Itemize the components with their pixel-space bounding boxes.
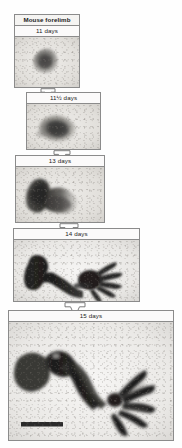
stage-label-13-days: 13 days (16, 156, 104, 167)
specimen-limb-paddle (16, 167, 104, 222)
stage-panel-14-days: 14 days (13, 228, 140, 302)
micrograph-14-days (14, 240, 139, 301)
micrograph-11-5-days (27, 104, 100, 149)
stage-label-15-days: 15 days (9, 311, 173, 322)
specimen-limb-digits-separated (9, 322, 173, 440)
specimen-limb-bud-elongating (27, 104, 100, 149)
stage-label-14-days: 14 days (14, 229, 139, 240)
stage-label-11-days: 11 days (15, 26, 79, 37)
stage-label-11-5-days: 11½ days (27, 93, 100, 104)
micrograph-13-days (16, 167, 104, 222)
micrograph-15-days (9, 322, 173, 440)
stage-panel-15-days: 15 days (8, 310, 174, 441)
micrograph-11-days (15, 37, 79, 87)
stage-panel-11-5-days: 11½ days (26, 92, 101, 150)
specimen-limb-digits-forming (14, 240, 139, 301)
scale-bar (21, 422, 63, 427)
stage-panel-13-days: 13 days (15, 155, 105, 223)
stage-title-mouse-forelimb: Mouse forelimb (15, 15, 79, 26)
stage-panel-11-days: Mouse forelimb 11 days (14, 14, 80, 88)
specimen-limb-bud-round (15, 37, 79, 87)
developmental-series-figure: Mouse forelimb 11 days (0, 0, 182, 448)
